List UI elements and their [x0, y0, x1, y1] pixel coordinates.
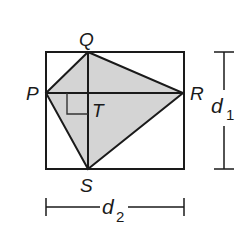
label-S: S [80, 175, 93, 196]
label-d1-subscript: 1 [226, 106, 234, 123]
label-d2: d [102, 195, 115, 218]
label-Q: Q [79, 29, 94, 50]
label-P: P [26, 83, 39, 104]
label-d1: d [211, 94, 224, 117]
label-d2-subscript: 2 [116, 208, 124, 225]
dimension-d2: d 2 [46, 195, 184, 225]
label-R: R [190, 83, 204, 104]
dimension-d1: d 1 [211, 52, 234, 169]
kite-diagram: Q P R T S d 1 d 2 [0, 0, 246, 237]
label-T: T [92, 100, 105, 121]
